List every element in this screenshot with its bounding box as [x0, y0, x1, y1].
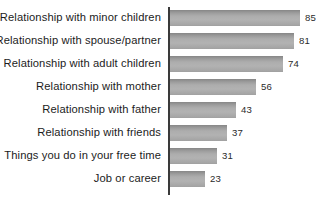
value-label: 81	[299, 34, 310, 48]
bar-row: Relationship with friends37	[0, 124, 322, 147]
category-label: Job or career	[94, 170, 161, 187]
category-label: Relationship with adult children	[4, 55, 161, 72]
bar-wrapper	[170, 56, 283, 72]
bar-row: Relationship with father43	[0, 101, 322, 124]
value-label: 85	[305, 11, 316, 25]
bar	[170, 79, 256, 95]
bar	[170, 148, 217, 164]
bar	[170, 125, 227, 141]
value-label: 23	[210, 172, 221, 186]
bar-row: Things you do in your free time31	[0, 147, 322, 170]
value-label: 56	[261, 80, 272, 94]
bar-wrapper	[170, 79, 256, 95]
bar	[170, 10, 300, 26]
value-label: 43	[241, 103, 252, 117]
bar-row: Relationship with spouse/partner81	[0, 32, 322, 55]
bar-chart: Relationship with minor children85Relati…	[0, 0, 322, 201]
bar-wrapper	[170, 10, 300, 26]
category-label: Relationship with spouse/partner	[0, 32, 161, 49]
bar-wrapper	[170, 33, 294, 49]
value-label: 74	[288, 57, 299, 71]
bar-row: Relationship with minor children85	[0, 9, 322, 32]
bar	[170, 102, 236, 118]
bar-wrapper	[170, 102, 236, 118]
plot-area: Relationship with minor children85Relati…	[0, 0, 322, 201]
bar	[170, 56, 283, 72]
bar-wrapper	[170, 148, 217, 164]
category-label: Relationship with minor children	[0, 9, 161, 26]
value-label: 37	[232, 126, 243, 140]
bar-row: Job or career23	[0, 170, 322, 193]
category-label: Relationship with father	[42, 101, 161, 118]
bar	[170, 171, 205, 187]
bar-row: Relationship with mother56	[0, 78, 322, 101]
bar-wrapper	[170, 125, 227, 141]
bar-row: Relationship with adult children74	[0, 55, 322, 78]
category-label: Relationship with mother	[36, 78, 161, 95]
bar-wrapper	[170, 171, 205, 187]
bar-row-list: Relationship with minor children85Relati…	[0, 9, 322, 193]
category-label: Relationship with friends	[37, 124, 161, 141]
bar	[170, 33, 294, 49]
value-label: 31	[222, 149, 233, 163]
category-label: Things you do in your free time	[4, 147, 161, 164]
